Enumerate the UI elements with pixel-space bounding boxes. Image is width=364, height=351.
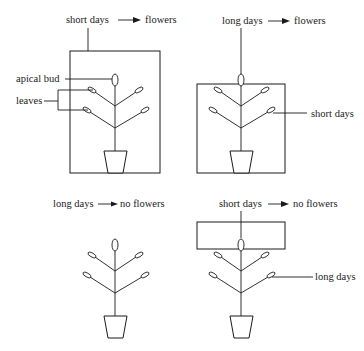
panel-short-days-flowers: short days flowers apical bud leaves [16, 14, 177, 173]
panel-long-days-no-flowers: long days no flowers [53, 198, 165, 338]
panel-1-result: flowers [145, 14, 177, 25]
panel-long-days-flowers: long days flowers short days [197, 15, 354, 173]
panel-2-side-label: short days [311, 108, 354, 119]
apical-bud-icon [112, 239, 118, 251]
photoperiod-diagram: short days flowers apical bud leaves lon… [0, 0, 364, 351]
arrow-right-icon [111, 202, 118, 207]
apical-bud-icon [238, 239, 244, 251]
panel-4-result: no flowers [293, 198, 338, 209]
plant [82, 239, 150, 338]
arrow-right-icon [281, 201, 289, 207]
panel-short-days-no-flowers: short days no flowers long days [197, 198, 356, 338]
apical-bud-icon [238, 74, 244, 86]
panel-3-result: no flowers [120, 198, 165, 209]
plant [82, 74, 150, 173]
arrow-right-icon [133, 17, 141, 23]
leaves-bracket [58, 90, 93, 110]
panel-4-condition: short days [219, 198, 262, 209]
panel-4-side-label: long days [315, 271, 356, 282]
panel-2-condition: long days [222, 15, 263, 26]
panel-3-condition: long days [53, 198, 94, 209]
panel-2-result: flowers [294, 15, 326, 26]
apical-bud-label: apical bud [16, 73, 60, 84]
arrow-right-icon [282, 18, 290, 24]
leaves-label: leaves [16, 95, 42, 106]
apical-bud-icon [112, 74, 118, 86]
plant [208, 239, 276, 338]
plant [208, 74, 276, 173]
panel-1-condition: short days [66, 14, 109, 25]
